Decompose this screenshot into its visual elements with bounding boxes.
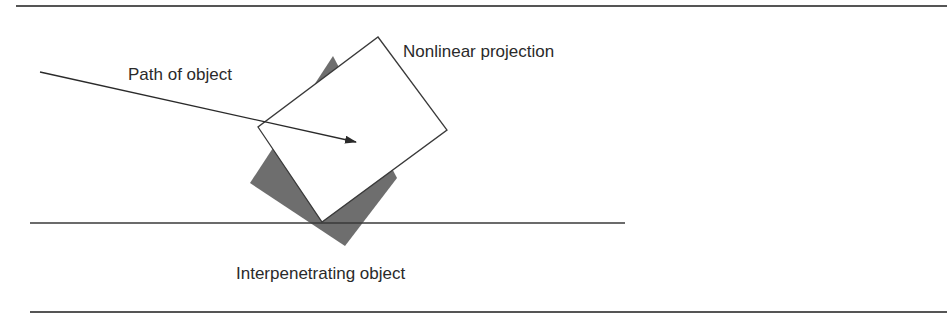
nonlinear-projection-label: Nonlinear projection bbox=[403, 42, 554, 61]
path-of-object-label: Path of object bbox=[128, 65, 232, 84]
diagram-canvas: Path of object Nonlinear projection Inte… bbox=[0, 0, 947, 328]
interpenetrating-object-label: Interpenetrating object bbox=[236, 264, 405, 283]
